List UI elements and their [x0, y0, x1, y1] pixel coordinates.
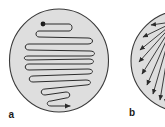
- plate-b: [131, 10, 165, 112]
- panel-a-label: a: [9, 109, 15, 120]
- panel-b-label: b: [129, 107, 135, 118]
- panel-b: b: [129, 10, 165, 118]
- figure: a b: [0, 0, 165, 127]
- panel-a: a: [9, 9, 109, 120]
